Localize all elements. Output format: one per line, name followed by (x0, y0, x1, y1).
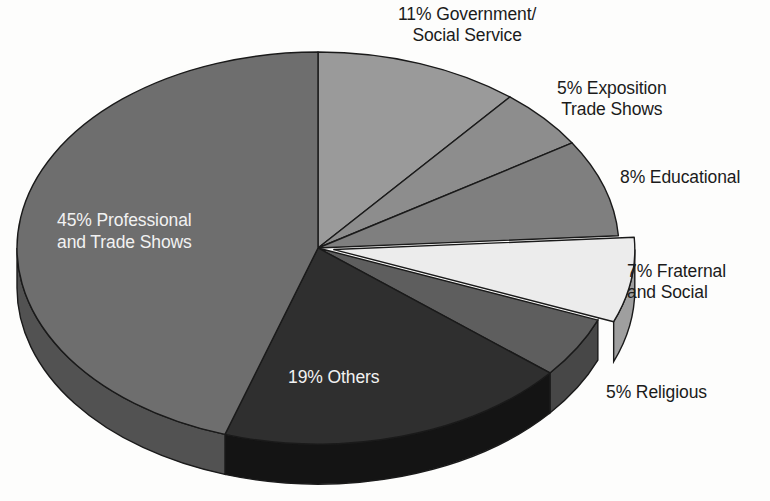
slice-label-religious: 5% Religious (606, 382, 707, 403)
slice-label-others: 19% Others (288, 366, 379, 388)
slice-label-fraternal: 7% Fraternal and Social (627, 261, 726, 303)
slice-label-professional: 45% Professional and Trade Shows (57, 209, 192, 253)
slice-label-exposition: 5% Exposition Trade Shows (557, 78, 667, 120)
slice-label-government: 11% Government/ Social Service (398, 4, 536, 46)
pie-chart: 11% Government/ Social Service 5% Exposi… (0, 0, 770, 501)
slice-label-educational: 8% Educational (620, 167, 740, 188)
